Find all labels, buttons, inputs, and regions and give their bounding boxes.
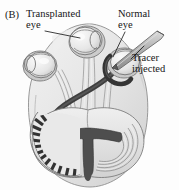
ocular-dominance-stripes-icon: [31, 113, 80, 178]
supernumerary-eye-icon: [23, 51, 57, 81]
label-tracer-injected: Tracer injected: [132, 52, 165, 74]
label-normal-eye: Normal eye: [118, 8, 150, 30]
transplanted-eye-icon: [69, 26, 105, 58]
label-transplanted-eye: Transplanted eye: [26, 8, 80, 30]
optic-tectum-icon: [30, 108, 144, 181]
panel-letter: (B): [5, 9, 19, 20]
figure-panel-b: (B) Transplanted eye Normal eye Tracer i…: [0, 0, 179, 190]
